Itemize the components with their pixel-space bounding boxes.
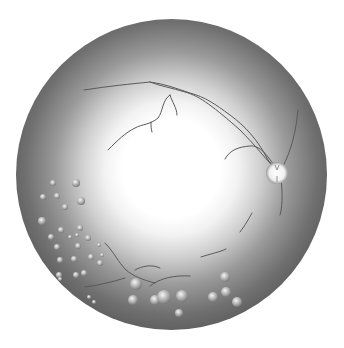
- druse-spot: [54, 244, 60, 250]
- druse-spot: [175, 309, 183, 317]
- druse-spot: [232, 297, 242, 307]
- druse-spot: [92, 300, 96, 304]
- drusen-spots: [38, 179, 242, 317]
- druse-spot: [100, 253, 104, 257]
- druse-spot: [73, 272, 79, 278]
- retinal-fundus: [16, 19, 327, 330]
- druse-spot: [75, 243, 81, 249]
- druse-spot: [85, 235, 91, 241]
- druse-spot: [54, 193, 60, 199]
- druse-spot: [56, 272, 62, 278]
- druse-spot: [97, 243, 101, 247]
- druse-spot: [176, 290, 188, 302]
- druse-spot: [58, 227, 64, 233]
- druse-spot: [77, 225, 83, 231]
- druse-spot: [50, 180, 56, 186]
- druse-spot: [77, 197, 85, 205]
- druse-spot: [38, 217, 46, 225]
- druse-spot: [57, 257, 63, 263]
- druse-spot: [157, 290, 171, 304]
- druse-spot: [97, 260, 103, 266]
- druse-spot: [220, 272, 230, 282]
- druse-spot: [71, 256, 77, 262]
- fundus-overlay: [16, 19, 327, 330]
- druse-spot: [81, 270, 87, 276]
- druse-spot: [48, 234, 54, 240]
- druse-spot: [87, 295, 91, 299]
- druse-spot: [221, 287, 231, 297]
- druse-spot: [62, 204, 68, 210]
- druse-spot: [72, 179, 80, 187]
- druse-spot: [75, 233, 79, 237]
- druse-spot: [208, 292, 218, 302]
- druse-spot: [88, 254, 94, 260]
- druse-spot: [128, 295, 138, 305]
- blood-vessels: [84, 82, 298, 287]
- druse-spot: [68, 235, 72, 239]
- druse-spot: [130, 278, 142, 290]
- druse-spot: [58, 277, 62, 281]
- druse-spot: [40, 194, 46, 200]
